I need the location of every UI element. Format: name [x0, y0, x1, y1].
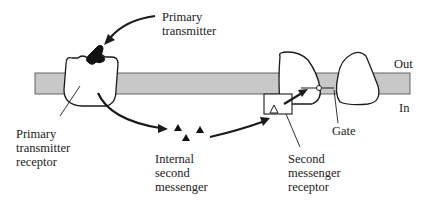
- channel-right-subunit: [336, 52, 378, 104]
- second-messenger-receptor-leader-line: [286, 114, 300, 147]
- label-internal-second-messenger: Internal second messenger: [155, 152, 208, 194]
- label-primary-transmitter-receptor: Primary transmitter receptor: [16, 127, 70, 169]
- second-messenger-triangle: [182, 134, 190, 141]
- label-out: Out: [394, 57, 413, 71]
- receptor-to-messenger-arrowhead: [158, 124, 168, 133]
- second-messenger-triangle: [174, 124, 182, 131]
- gate-hinge-icon: [317, 86, 322, 91]
- second-messenger-receptor-box: [264, 94, 292, 114]
- messenger-to-receptor-arrow: [210, 122, 262, 137]
- label-second-messenger-receptor: Second messenger receptor: [288, 152, 341, 194]
- primary-transmitter-arrow: [110, 16, 155, 38]
- second-messenger-triangle: [196, 126, 204, 133]
- label-in: In: [399, 101, 409, 115]
- messenger-to-receptor-arrowhead: [260, 117, 270, 126]
- label-gate: Gate: [332, 124, 356, 138]
- label-primary-transmitter: Primary transmitter: [162, 10, 216, 38]
